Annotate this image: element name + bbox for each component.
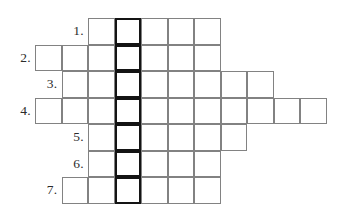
crossword-cell-r6-c3[interactable] — [141, 151, 168, 178]
crossword-cell-r1-c3[interactable] — [141, 18, 168, 45]
crossword-cell-r3-c8[interactable] — [247, 71, 274, 98]
crossword-cell-r6-c4[interactable] — [168, 151, 195, 178]
crossword-cell-r2-c7[interactable] — [194, 45, 221, 72]
crossword-cell-r2-c3[interactable] — [88, 45, 115, 72]
row-number-3: 3. — [40, 77, 58, 91]
crossword-cell-r5-c5[interactable] — [194, 124, 221, 151]
crossword-cell-r4-c2[interactable] — [62, 98, 89, 125]
crossword-puzzle: 1.2.3.4.5.6.7. — [0, 0, 344, 218]
crossword-cell-r4-c8[interactable] — [221, 98, 248, 125]
crossword-cell-r2-c1[interactable] — [35, 45, 62, 72]
crossword-cell-r6-c5[interactable] — [194, 151, 221, 178]
crossword-cell-r4-c6[interactable] — [168, 98, 195, 125]
row-number-2: 2. — [13, 51, 31, 65]
crossword-cell-r4-c1[interactable] — [35, 98, 62, 125]
crossword-key-cell-r3[interactable] — [115, 71, 142, 98]
crossword-cell-r5-c1[interactable] — [88, 124, 115, 151]
crossword-key-cell-r5[interactable] — [115, 124, 142, 151]
crossword-cell-r2-c5[interactable] — [141, 45, 168, 72]
crossword-cell-r4-c5[interactable] — [141, 98, 168, 125]
crossword-cell-r4-c7[interactable] — [194, 98, 221, 125]
crossword-cell-r3-c1[interactable] — [62, 71, 89, 98]
crossword-cell-r3-c7[interactable] — [221, 71, 248, 98]
crossword-cell-r1-c5[interactable] — [194, 18, 221, 45]
crossword-cell-r4-c11[interactable] — [300, 98, 327, 125]
row-number-4: 4. — [13, 104, 31, 118]
crossword-cell-r5-c3[interactable] — [141, 124, 168, 151]
crossword-cell-r3-c5[interactable] — [168, 71, 195, 98]
crossword-key-cell-r1[interactable] — [115, 18, 142, 45]
crossword-cell-r6-c1[interactable] — [88, 151, 115, 178]
crossword-cell-r2-c2[interactable] — [62, 45, 89, 72]
crossword-cell-r7-c4[interactable] — [141, 177, 168, 204]
crossword-cell-r7-c1[interactable] — [62, 177, 89, 204]
crossword-cell-r3-c2[interactable] — [88, 71, 115, 98]
crossword-cell-r7-c6[interactable] — [194, 177, 221, 204]
row-number-7: 7. — [40, 183, 58, 197]
row-number-6: 6. — [66, 157, 84, 171]
crossword-key-cell-r6[interactable] — [115, 151, 142, 178]
crossword-grid: 1.2.3.4.5.6.7. — [0, 0, 344, 218]
crossword-cell-r2-c6[interactable] — [168, 45, 195, 72]
crossword-key-cell-r2[interactable] — [115, 45, 142, 72]
crossword-cell-r5-c6[interactable] — [221, 124, 248, 151]
crossword-cell-r3-c6[interactable] — [194, 71, 221, 98]
crossword-cell-r7-c2[interactable] — [88, 177, 115, 204]
crossword-key-cell-r4[interactable] — [115, 98, 142, 125]
crossword-cell-r1-c4[interactable] — [168, 18, 195, 45]
crossword-cell-r4-c3[interactable] — [88, 98, 115, 125]
crossword-cell-r3-c4[interactable] — [141, 71, 168, 98]
row-number-1: 1. — [66, 24, 84, 38]
crossword-cell-r4-c9[interactable] — [247, 98, 274, 125]
crossword-key-cell-r7[interactable] — [115, 177, 142, 204]
crossword-cell-r1-c1[interactable] — [88, 18, 115, 45]
crossword-cell-r7-c5[interactable] — [168, 177, 195, 204]
row-number-5: 5. — [66, 130, 84, 144]
crossword-cell-r5-c4[interactable] — [168, 124, 195, 151]
crossword-cell-r4-c10[interactable] — [274, 98, 301, 125]
